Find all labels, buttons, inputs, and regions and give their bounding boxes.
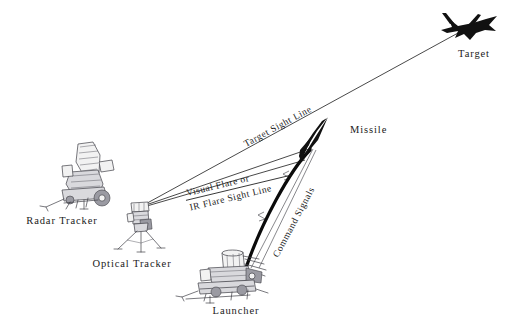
radar-tracker-icon (40, 142, 114, 211)
flare-sight-line-label-group: Visual Flare or IR Flare Sight Line (183, 163, 294, 213)
target-sight-line-label: Target Sight Line (242, 104, 313, 149)
launcher-label: Launcher (213, 305, 260, 316)
optical-tracker-label: Optical Tracker (92, 258, 171, 269)
diagram-svg: Radar Tracker Optical Tracker Launcher M… (0, 0, 517, 329)
optical-tracker-icon (114, 202, 165, 252)
launcher-icon (176, 250, 268, 303)
command-signal-line-b (259, 150, 316, 268)
radar-tracker-label: Radar Tracker (26, 215, 97, 226)
target-aircraft-icon (441, 13, 497, 40)
missile-label: Missile (350, 124, 387, 135)
lightning-zigzag-lower-icon (258, 212, 265, 221)
diagram-canvas: Radar Tracker Optical Tracker Launcher M… (0, 0, 517, 329)
target-label: Target (458, 48, 490, 59)
sight-lines-group (140, 33, 458, 208)
